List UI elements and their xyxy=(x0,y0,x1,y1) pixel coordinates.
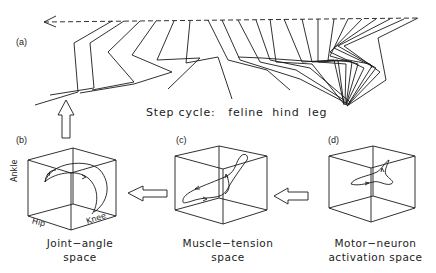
panel-label-d: (d) xyxy=(328,135,339,145)
panel-label-b: (b) xyxy=(16,135,27,145)
axis-label-ankle: Ankle xyxy=(10,160,19,182)
cube-muscle-tension xyxy=(175,146,267,224)
step-cycle-title: Step cycle: feline hind leg xyxy=(146,106,327,119)
arrow-up-to-step-cycle xyxy=(58,100,74,138)
caption-b-line2: space xyxy=(20,250,140,264)
caption-motor-neuron-space: Motor−neuron activation space xyxy=(315,236,436,264)
caption-d-line2: activation space xyxy=(315,250,436,264)
arrow-left-to-joint-angle xyxy=(128,186,167,201)
caption-b-line1: Joint−angle xyxy=(20,236,140,250)
caption-muscle-tension-space: Muscle−tension space xyxy=(168,236,288,264)
arrow-left-to-muscle-tension xyxy=(274,188,308,204)
diagram-canvas xyxy=(0,0,436,273)
caption-d-line1: Motor−neuron xyxy=(315,236,436,250)
caption-joint-angle-space: Joint−angle space xyxy=(20,236,140,264)
caption-c-line1: Muscle−tension xyxy=(168,236,288,250)
cube-motor-neuron xyxy=(329,146,415,222)
caption-c-line2: space xyxy=(168,250,288,264)
panel-label-a: (a) xyxy=(16,37,27,47)
figure: (a) (b) (c) (d) Step cycle: feline hind … xyxy=(0,0,436,273)
stick-figure-step-cycle xyxy=(35,16,418,106)
panel-label-c: (c) xyxy=(176,135,187,145)
